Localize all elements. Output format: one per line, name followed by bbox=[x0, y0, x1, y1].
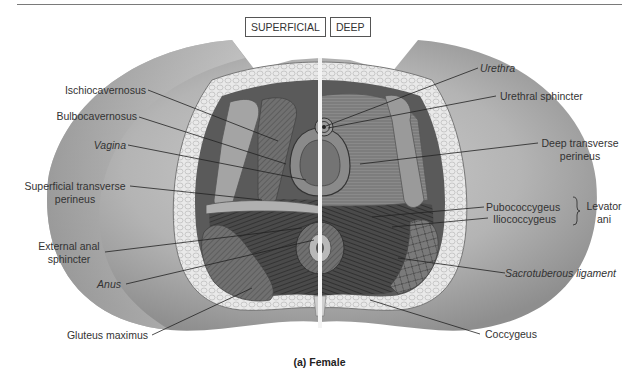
label-levator-ani: Levator ani bbox=[582, 200, 626, 225]
figure-caption: (a) Female bbox=[0, 356, 639, 368]
label-urethra: Urethra bbox=[480, 62, 515, 75]
tab-deep: DEEP bbox=[330, 17, 371, 37]
label-superficial-transverse-perineus: Superficial transverse perineus bbox=[22, 180, 128, 205]
label-iliococcygeus: Iliococcygeus bbox=[493, 213, 556, 226]
label-anus: Anus bbox=[97, 278, 121, 291]
label-sacrotuberous-ligament: Sacrotuberous ligament bbox=[505, 267, 616, 280]
label-urethral-sphincter: Urethral sphincter bbox=[500, 90, 583, 103]
label-gluteus-maximus: Gluteus maximus bbox=[67, 329, 148, 342]
label-vagina: Vagina bbox=[94, 139, 126, 152]
label-coccygeus: Coccygeus bbox=[485, 328, 537, 341]
tab-superficial: SUPERFICIAL bbox=[245, 17, 326, 37]
label-ischiocavernosus: Ischiocavernosus bbox=[65, 84, 146, 97]
label-bulbocavernosus: Bulbocavernosus bbox=[56, 110, 137, 123]
superficial-deep-divider bbox=[318, 58, 322, 328]
label-external-anal-sphincter: External anal sphincter bbox=[36, 240, 102, 265]
label-deep-transverse-perineus: Deep transverse perineus bbox=[540, 137, 620, 162]
label-pubococcygeus: Pubococcygeus bbox=[486, 201, 560, 214]
